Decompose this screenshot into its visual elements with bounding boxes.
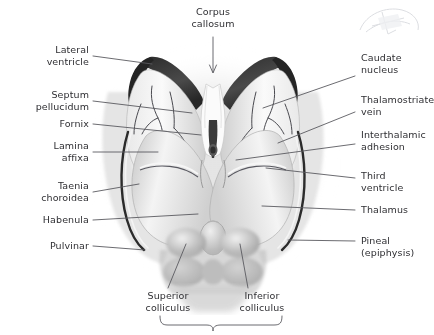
label-pulvinar: Pulvinar [0,240,89,252]
label-lateral-ventricle: Lateral ventricle [0,44,89,67]
label-caudate-nucleus: Caudate nucleus [361,52,427,75]
label-interthalamic-adhesion: Interthalamic adhesion [361,129,427,152]
label-fornix: Fornix [0,118,89,130]
label-lamina-affixa: Lamina affixa [0,140,89,163]
label-habenula: Habenula [0,214,89,226]
label-thalamus: Thalamus [361,204,427,216]
orientation-inset [352,0,426,44]
label-thalamostriate-vein: Thalamostriate vein [361,94,427,117]
label-superior-colliculus: Superior colliculus [124,290,212,313]
label-pineal-epiphysis: Pineal (epiphysis) [361,235,427,258]
label-septum-pellucidum: Septum pellucidum [0,89,89,112]
label-inferior-colliculus: Inferior colliculus [218,290,306,313]
label-taenia-choroidea: Taenia choroidea [0,180,89,203]
label-corpus-callosum: Corpus callosum [163,6,263,29]
label-third-ventricle: Third ventricle [361,170,427,193]
